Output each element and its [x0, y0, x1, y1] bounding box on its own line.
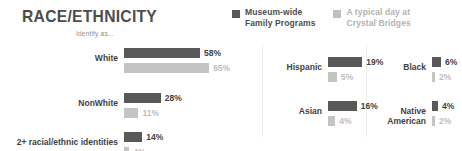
- row-label: White: [0, 47, 124, 63]
- bar-light: [432, 72, 435, 82]
- bar-value-dark: 4%: [442, 101, 454, 111]
- bar-light: [328, 72, 337, 82]
- legend-item-label: A typical day at Crystal Bridges: [346, 7, 410, 29]
- bar-dark: [432, 101, 438, 111]
- bar-value-dark: 6%: [445, 57, 457, 67]
- chart-row: Asian 16% 4%: [264, 100, 378, 126]
- row-label: Black: [368, 56, 432, 72]
- bar-dark: [124, 132, 142, 142]
- bar-value-light: 65%: [213, 63, 230, 73]
- bar-value-light: 4%: [339, 116, 351, 126]
- bar-light: [432, 116, 435, 126]
- bar-value-dark: 58%: [204, 48, 221, 58]
- legend: Museum-wide Family Programs A typical da…: [232, 7, 411, 29]
- bar-light: [124, 147, 129, 151]
- bar-dark: [124, 48, 200, 58]
- bar-light: [124, 108, 138, 118]
- row-label: Hispanic: [264, 56, 328, 72]
- row-bars: 4% 2%: [432, 100, 454, 126]
- row-bars: 28% 11%: [124, 92, 182, 118]
- legend-item-label: Museum-wide Family Programs: [245, 7, 315, 29]
- row-bars: 58% 65%: [124, 47, 230, 73]
- chart-row: Native American 4% 2%: [368, 100, 454, 126]
- bar-dark: [328, 101, 357, 111]
- chart-panel-secondary: Hispanic 19% 5% Asian 16% 4%: [264, 28, 366, 149]
- bar-group-dark: 58%: [124, 48, 230, 58]
- chart-panel-primary: Identify as... White 58% 65% NonWhite 28…: [0, 28, 250, 149]
- bar-group-dark: 4%: [432, 101, 454, 111]
- bar-value-dark: 28%: [165, 93, 182, 103]
- row-bars: 6% 2%: [432, 56, 457, 82]
- bar-group-light: 4%: [124, 147, 163, 151]
- row-bars: 14% 4%: [124, 131, 163, 151]
- row-label: NonWhite: [0, 92, 124, 108]
- panel-caption: Identify as...: [76, 30, 114, 37]
- chart-row: Hispanic 19% 5%: [264, 56, 383, 82]
- bar-dark: [328, 57, 362, 67]
- bar-dark: [124, 93, 161, 103]
- bar-value-light: 2%: [439, 72, 451, 82]
- bar-group-light: 2%: [432, 116, 454, 126]
- row-label: Asian: [264, 100, 328, 116]
- bar-group-dark: 14%: [124, 132, 163, 142]
- chart-row: NonWhite 28% 11%: [0, 92, 182, 118]
- bar-group-dark: 6%: [432, 57, 457, 67]
- legend-item-typical-day: A typical day at Crystal Bridges: [333, 7, 410, 29]
- chart-row: Black 6% 2%: [368, 56, 457, 82]
- row-label: 2+ racial/ethnic identities: [0, 131, 124, 147]
- light-square-icon: [333, 10, 341, 18]
- bar-dark: [432, 57, 441, 67]
- bar-group-light: 65%: [124, 63, 230, 73]
- legend-item-museum-wide: Museum-wide Family Programs: [232, 7, 315, 29]
- bar-value-dark: 14%: [146, 132, 163, 142]
- bar-value-light: 11%: [142, 108, 159, 118]
- bar-light: [328, 116, 335, 126]
- chart-row: White 58% 65%: [0, 47, 230, 73]
- chart-panel-tertiary: Black 6% 2% Native American 4% 2%: [368, 28, 462, 149]
- chart-row: 2+ racial/ethnic identities 14% 4%: [0, 131, 163, 151]
- bar-value-light: 2%: [439, 116, 451, 126]
- panel-divider: [262, 45, 263, 137]
- page-title: RACE/ETHNICITY: [22, 7, 157, 27]
- bar-light: [124, 63, 209, 73]
- bar-group-light: 2%: [432, 72, 457, 82]
- bar-group-dark: 28%: [124, 93, 182, 103]
- bar-value-light: 4%: [133, 147, 145, 151]
- row-label: Native American: [368, 100, 432, 126]
- bar-value-light: 5%: [341, 72, 353, 82]
- dark-square-icon: [232, 10, 240, 18]
- bar-group-light: 11%: [124, 108, 182, 118]
